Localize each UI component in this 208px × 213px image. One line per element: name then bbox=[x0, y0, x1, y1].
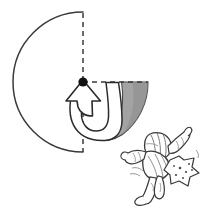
tumbling-figure bbox=[121, 127, 199, 205]
figure-legs bbox=[135, 176, 165, 205]
rotation-arrow-group bbox=[66, 80, 122, 141]
semicircle-arc bbox=[13, 12, 83, 152]
figure-right-arm bbox=[168, 127, 192, 153]
figure-burst-object bbox=[164, 156, 199, 186]
center-point-dot bbox=[78, 77, 87, 86]
diagram-svg bbox=[0, 0, 208, 213]
figure-canvas: Rotation diagram with semicircular arc a… bbox=[0, 0, 208, 213]
